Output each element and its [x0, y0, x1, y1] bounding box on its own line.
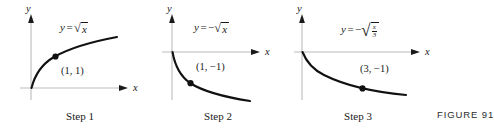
point-label-step-2: (1, −1) [196, 62, 225, 73]
radical-sign-icon: √ [74, 22, 81, 35]
marked-point-1-neg1 [187, 80, 193, 86]
marked-point-1-1 [52, 53, 58, 59]
curve-neg-sqrt-x-over-3 [303, 52, 407, 95]
y-axis-label: y [26, 4, 31, 15]
fraction-numerator: x [372, 24, 378, 31]
figure-number-label: FIGURE 91 [437, 110, 494, 120]
radicand: x [81, 22, 88, 35]
x-axis-arrowhead [119, 85, 128, 91]
x-axis-label: x [425, 47, 430, 58]
y-axis-arrowhead [169, 14, 175, 23]
equation-step-1: y=√x [60, 22, 88, 35]
graph-panel-step-1: y x y=√x (1, 1) [0, 0, 150, 108]
step-caption-3: Step 3 [308, 111, 408, 122]
equation-equals: = [199, 21, 208, 33]
point-label-step-3: (3, −1) [360, 64, 389, 75]
point-label-step-1: (1, 1) [61, 66, 84, 77]
radical-expression: √x [74, 22, 88, 35]
x-axis-label: x [265, 47, 270, 58]
radical-expression: √x3 [361, 22, 378, 40]
y-axis-arrowhead [28, 14, 34, 23]
step-caption-1: Step 1 [30, 111, 130, 122]
curve-neg-sqrt-x [173, 52, 251, 101]
radicand: x [221, 22, 228, 35]
y-axis-arrowhead [299, 14, 305, 23]
step-caption-2: Step 2 [168, 111, 268, 122]
graph-svg-step-1 [0, 0, 150, 108]
radical-expression: √x [214, 22, 228, 35]
y-axis-label: y [297, 4, 302, 15]
x-axis-label: x [133, 83, 138, 94]
radical-sign-icon: √ [361, 22, 370, 39]
figure-container: y x y=√x (1, 1) y x y=−√x (1, −1) [0, 0, 494, 135]
equation-equals: = [65, 21, 74, 33]
equation-step-2: y=−√x [194, 22, 229, 35]
fraction-denominator: 3 [372, 31, 378, 39]
radical-sign-icon: √ [214, 22, 221, 35]
radicand-fraction: x3 [371, 22, 379, 40]
equation-step-3: y=−√x3 [341, 22, 379, 40]
graph-panel-step-3: y x y=−√x3 (3, −1) [288, 0, 448, 108]
curve-sqrt-x [32, 37, 118, 88]
y-axis-label: y [167, 4, 172, 15]
fraction: x3 [372, 24, 378, 40]
marked-point-3-neg1 [359, 85, 365, 91]
graph-panel-step-2: y x y=−√x (1, −1) [148, 0, 288, 108]
x-axis-arrowhead [251, 49, 260, 55]
x-axis-arrowhead [411, 49, 420, 55]
equation-equals: = [346, 23, 355, 35]
graph-svg-step-3 [288, 0, 448, 108]
